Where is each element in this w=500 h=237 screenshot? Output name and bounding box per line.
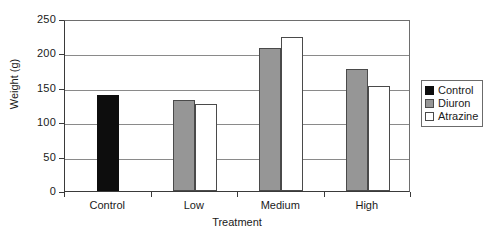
y-axis-tick-label: 50 <box>22 152 56 163</box>
legend-item-diuron: Diuron <box>425 97 478 110</box>
bar-medium-diuron <box>259 48 281 191</box>
legend-swatch-diuron-icon <box>425 99 434 108</box>
legend-swatch-control-icon <box>425 86 434 95</box>
gridline <box>65 55 409 56</box>
bar-control-control <box>97 95 119 191</box>
bar-medium-atrazine <box>281 37 303 191</box>
legend-label: Control <box>438 85 473 96</box>
y-axis-tick-label: 0 <box>22 186 56 197</box>
legend-label: Atrazine <box>438 111 478 122</box>
bar-low-diuron <box>173 100 195 192</box>
y-axis-tick-label: 200 <box>22 48 56 59</box>
chart-figure: Weight (g) 050100150200250 ControlLowMed… <box>0 0 500 237</box>
legend-swatch-atrazine-icon <box>425 112 434 121</box>
x-axis-tick-mark <box>151 192 152 197</box>
y-axis-tick-label: 250 <box>22 14 56 25</box>
plot-area <box>64 20 410 192</box>
legend-item-atrazine: Atrazine <box>425 110 478 123</box>
legend-label: Diuron <box>438 98 470 109</box>
x-axis-tick-label-low: Low <box>151 199 238 211</box>
x-axis-title: Treatment <box>64 216 410 228</box>
bar-high-atrazine <box>368 86 390 191</box>
x-axis-tick-label-medium: Medium <box>237 199 324 211</box>
legend: ControlDiuronAtrazine <box>421 80 483 127</box>
legend-item-control: Control <box>425 84 478 97</box>
x-axis-tick-mark <box>410 192 411 197</box>
y-axis-tick-label: 100 <box>22 117 56 128</box>
bar-low-atrazine <box>195 104 217 191</box>
bar-high-diuron <box>346 69 368 191</box>
x-axis-tick-label-control: Control <box>64 199 151 211</box>
y-axis-title: Weight (g) <box>8 39 20 129</box>
x-axis-tick-mark <box>237 192 238 197</box>
x-axis-tick-mark <box>64 192 65 197</box>
x-axis-tick-label-high: High <box>324 199 411 211</box>
y-axis-tick-label: 150 <box>22 83 56 94</box>
x-axis-tick-mark <box>324 192 325 197</box>
